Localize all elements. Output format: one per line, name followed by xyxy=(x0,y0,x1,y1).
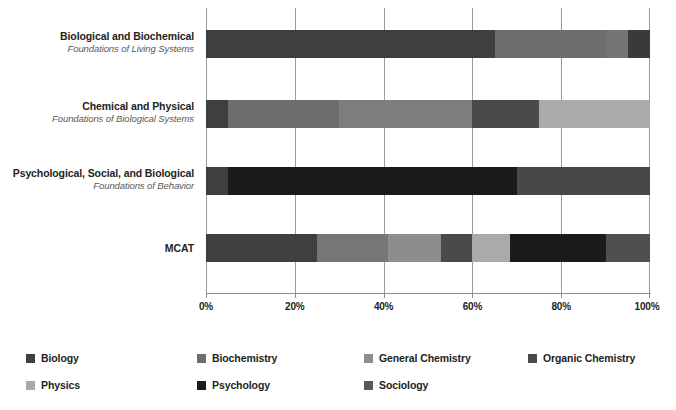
legend-label: Organic Chemistry xyxy=(543,352,635,364)
x-tick-100 xyxy=(649,293,650,298)
legend-item-biochemistry: Biochemistry xyxy=(197,352,277,364)
row-label-secondary: Foundations of Living Systems xyxy=(0,43,194,55)
bar-biological-and-biochemical xyxy=(206,30,650,58)
bar-segment xyxy=(206,100,228,128)
legend-swatch-icon xyxy=(364,354,373,363)
bar-psychological-social-and-biological xyxy=(206,167,650,195)
bar-chemical-and-physical xyxy=(206,100,650,128)
row-label-psychological-social-and-biological: Psychological, Social, and Biological Fo… xyxy=(0,167,194,192)
bar-segment xyxy=(472,100,539,128)
bar-segment xyxy=(228,167,517,195)
x-axis-line xyxy=(206,293,651,294)
bar-segment xyxy=(388,234,441,262)
x-tick-40 xyxy=(384,293,385,298)
legend-item-general-chemistry: General Chemistry xyxy=(364,352,471,364)
bar-segment xyxy=(606,234,650,262)
legend-label: General Chemistry xyxy=(379,352,471,364)
legend-label: Biochemistry xyxy=(212,352,277,364)
bar-segment xyxy=(206,234,317,262)
x-tick-0 xyxy=(206,293,207,298)
x-tick-label-80: 80% xyxy=(551,301,570,312)
legend-swatch-icon xyxy=(197,354,206,363)
legend-swatch-icon xyxy=(364,381,373,390)
stacked-bar-chart: Biological and Biochemical Foundations o… xyxy=(0,0,676,410)
x-tick-20 xyxy=(295,293,296,298)
legend-label: Sociology xyxy=(379,379,428,391)
bar-segment xyxy=(206,30,495,58)
legend-item-biology: Biology xyxy=(26,352,79,364)
bar-segment xyxy=(510,234,605,262)
bar-mcat xyxy=(206,234,650,262)
legend-item-psychology: Psychology xyxy=(197,379,270,391)
legend-item-physics: Physics xyxy=(26,379,80,391)
row-label-primary: MCAT xyxy=(0,242,194,255)
x-tick-label-0: 0% xyxy=(199,301,213,312)
row-label-biological-and-biochemical: Biological and Biochemical Foundations o… xyxy=(0,30,194,55)
x-tick-label-100: 100% xyxy=(635,301,660,312)
bar-segment xyxy=(206,167,228,195)
bar-segment xyxy=(606,30,628,58)
row-label-mcat: MCAT xyxy=(0,242,194,255)
bar-segment xyxy=(517,167,650,195)
legend-swatch-icon xyxy=(26,381,35,390)
row-label-secondary: Foundations of Biological Systems xyxy=(0,113,194,125)
row-label-primary: Psychological, Social, and Biological xyxy=(0,167,194,180)
bar-segment xyxy=(539,100,650,128)
row-label-chemical-and-physical: Chemical and Physical Foundations of Bio… xyxy=(0,100,194,125)
x-tick-label-40: 40% xyxy=(374,301,393,312)
bar-segment xyxy=(628,30,650,58)
legend-item-organic-chemistry: Organic Chemistry xyxy=(528,352,635,364)
bar-segment xyxy=(228,100,339,128)
x-tick-60 xyxy=(472,293,473,298)
row-label-primary: Chemical and Physical xyxy=(0,100,194,113)
legend-label: Physics xyxy=(41,379,80,391)
row-label-secondary: Foundations of Behavior xyxy=(0,180,194,192)
bar-segment xyxy=(441,234,472,262)
x-tick-80 xyxy=(561,293,562,298)
legend-swatch-icon xyxy=(197,381,206,390)
legend-label: Biology xyxy=(41,352,79,364)
legend-swatch-icon xyxy=(26,354,35,363)
x-tick-label-20: 20% xyxy=(285,301,304,312)
legend-label: Psychology xyxy=(212,379,270,391)
chart-legend: Biology Biochemistry General Chemistry O… xyxy=(0,340,676,410)
legend-swatch-icon xyxy=(528,354,537,363)
row-label-primary: Biological and Biochemical xyxy=(0,30,194,43)
bar-segment xyxy=(339,100,472,128)
bar-segment xyxy=(495,30,606,58)
x-tick-label-60: 60% xyxy=(463,301,482,312)
legend-item-sociology: Sociology xyxy=(364,379,428,391)
bar-segment xyxy=(472,234,510,262)
bar-segment xyxy=(317,234,388,262)
